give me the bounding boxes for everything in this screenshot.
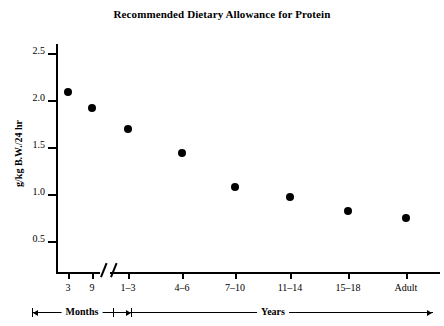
y-tick-mark — [48, 53, 56, 55]
axis-break-slash-right — [110, 263, 117, 278]
data-point — [124, 125, 132, 133]
chart-container: Recommended Dietary Allowance for Protei… — [0, 0, 444, 326]
y-tick-label: 2.5 — [21, 45, 45, 56]
x-tick-mark — [290, 272, 292, 279]
axis-break-slash-left — [100, 263, 107, 278]
data-point — [64, 88, 72, 96]
y-tick-mark — [48, 194, 56, 196]
y-tick-label: 0.5 — [21, 233, 45, 244]
x-tick-label: 11–14 — [260, 282, 320, 293]
group-label-years: Years — [257, 306, 289, 317]
data-point — [344, 207, 352, 215]
x-tick-mark — [235, 272, 237, 279]
y-tick-mark — [48, 100, 56, 102]
x-tick-mark — [406, 272, 408, 279]
x-tick-label: 7–10 — [205, 282, 265, 293]
y-tick-label: 1.5 — [21, 139, 45, 150]
data-point — [286, 193, 294, 201]
data-point — [231, 183, 239, 191]
data-point — [178, 149, 186, 157]
chart-title: Recommended Dietary Allowance for Protei… — [0, 8, 444, 20]
group-bar-arrow-right-icon — [427, 310, 432, 316]
y-axis-line — [56, 44, 58, 274]
group-bar-cap-left — [113, 308, 114, 317]
x-tick-mark — [92, 272, 94, 279]
x-axis-line-years — [110, 272, 440, 274]
x-tick-label: 15–18 — [318, 282, 378, 293]
x-tick-label: 1–3 — [98, 282, 158, 293]
x-tick-mark — [182, 272, 184, 279]
y-tick-mark — [48, 147, 56, 149]
data-point — [402, 214, 410, 222]
x-tick-mark — [128, 272, 130, 279]
data-point — [88, 104, 96, 112]
x-tick-label: Adult — [376, 282, 436, 293]
y-tick-mark — [48, 241, 56, 243]
x-tick-mark — [68, 272, 70, 279]
group-bar-years: Years — [113, 307, 433, 319]
x-tick-label: 4–6 — [152, 282, 212, 293]
x-tick-mark — [348, 272, 350, 279]
group-bar-arrow-left-icon — [33, 310, 38, 316]
y-tick-label: 2.0 — [21, 92, 45, 103]
group-label-months: Months — [62, 306, 103, 317]
y-tick-label: 1.0 — [21, 186, 45, 197]
